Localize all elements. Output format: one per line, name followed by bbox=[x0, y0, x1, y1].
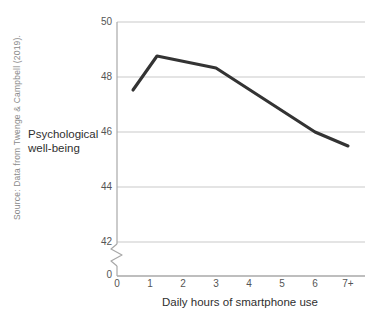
x-tick-label: 5 bbox=[272, 278, 292, 289]
y-tick-label: 42 bbox=[86, 236, 112, 247]
y-tick-label: 44 bbox=[86, 181, 112, 192]
x-axis-title: Daily hours of smartphone use bbox=[110, 296, 370, 308]
x-tick-label: 2 bbox=[173, 278, 193, 289]
x-tick-label: 6 bbox=[305, 278, 325, 289]
y-tick-label: 50 bbox=[86, 16, 112, 27]
y-axis-title: Psychological well-being bbox=[28, 128, 108, 155]
chart-canvas bbox=[0, 0, 383, 319]
x-tick-label: 4 bbox=[239, 278, 259, 289]
y-tick-label: 48 bbox=[86, 71, 112, 82]
x-tick-label: 1 bbox=[140, 278, 160, 289]
y-axis-title-line1: Psychological bbox=[28, 128, 108, 142]
y-axis-break-zigzag bbox=[111, 244, 122, 266]
x-tick-label: 0 bbox=[107, 278, 127, 289]
chart-figure: Source: Data from Twenge & Campbell (201… bbox=[0, 0, 383, 319]
x-tick-label: 3 bbox=[206, 278, 226, 289]
x-tick-label: 7+ bbox=[338, 278, 358, 289]
gridlines bbox=[117, 22, 365, 242]
y-axis-title-line2: well-being bbox=[28, 142, 108, 156]
